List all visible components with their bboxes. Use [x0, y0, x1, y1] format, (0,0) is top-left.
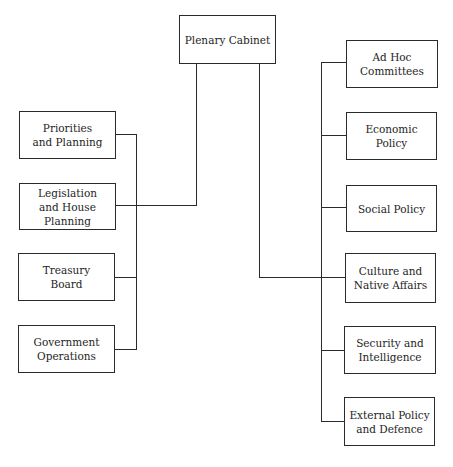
connector-government-operations	[114, 349, 137, 350]
org-chart: Plenary Cabinet Priorities and Planning …	[0, 0, 453, 467]
node-security-and-intelligence: Security and Intelligence	[344, 326, 436, 374]
node-external-policy-and-defence: External Policy and Defence	[344, 397, 435, 446]
connector-security	[321, 350, 345, 351]
node-culture-and-native-affairs: Culture and Native Affairs	[345, 253, 436, 303]
connector-plenary-right-vertical	[259, 63, 260, 278]
connector-culture-horizontal	[259, 277, 345, 278]
node-legislation-and-house-planning: Legislation and House Planning	[19, 183, 116, 230]
connector-priorities	[115, 134, 137, 135]
node-priorities-and-planning: Priorities and Planning	[19, 111, 116, 159]
connector-treasury	[114, 277, 137, 278]
node-plenary-cabinet: Plenary Cabinet	[179, 15, 276, 64]
connector-external	[321, 421, 345, 422]
connector-economic	[321, 135, 346, 136]
node-ad-hoc-committees: Ad Hoc Committees	[346, 40, 438, 88]
left-bus-vertical	[136, 134, 137, 350]
connector-ad-hoc	[321, 62, 346, 63]
node-government-operations: Government Operations	[18, 325, 115, 373]
node-treasury-board: Treasury Board	[18, 253, 115, 301]
connector-legislation-horizontal	[115, 205, 197, 206]
node-economic-policy: Economic Policy	[346, 112, 437, 160]
right-bus-vertical	[321, 62, 322, 422]
node-social-policy: Social Policy	[346, 185, 437, 232]
connector-plenary-left-vertical	[196, 63, 197, 206]
connector-social	[321, 207, 346, 208]
